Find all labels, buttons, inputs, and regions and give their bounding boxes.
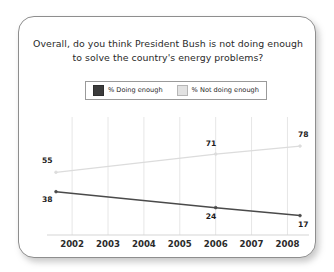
data-point-label: 38	[42, 195, 53, 204]
x-tick-2008: 2008	[275, 239, 299, 249]
legend-entry-not-doing-enough: % Not doing enough	[177, 85, 259, 96]
data-point-marker	[299, 214, 302, 217]
chart-card: Overall, do you think President Bush is …	[18, 16, 316, 258]
x-tick-2002: 2002	[60, 239, 84, 249]
x-tick-2003: 2003	[96, 239, 120, 249]
data-point-marker	[299, 145, 302, 148]
chart-plot-area: 557178382417	[47, 117, 309, 239]
screenshot-root: Overall, do you think President Bush is …	[0, 0, 334, 272]
data-point-label: 17	[298, 220, 309, 229]
data-point-marker	[214, 153, 217, 156]
chart-legend: % Doing enough % Not doing enough	[85, 81, 267, 100]
data-point-label: 24	[206, 212, 217, 221]
x-tick-2005: 2005	[168, 239, 192, 249]
data-point-label: 78	[298, 130, 309, 139]
chart-title: Overall, do you think President Bush is …	[33, 37, 303, 64]
chart-svg	[47, 117, 309, 239]
legend-label-doing-enough: % Doing enough	[108, 86, 163, 95]
series-line-not-doing-enough	[56, 146, 300, 172]
x-tick-2004: 2004	[132, 239, 156, 249]
chart-title-line-2: to solve the country's energy problems?	[33, 51, 303, 65]
data-point-marker	[214, 206, 217, 209]
data-point-marker	[55, 171, 58, 174]
data-point-label: 71	[206, 139, 217, 148]
data-point-marker	[55, 190, 58, 193]
light-swatch-icon	[177, 85, 188, 96]
x-axis-tick-labels: 2002200320042005200620072008	[47, 239, 309, 257]
legend-entry-doing-enough: % Doing enough	[93, 85, 163, 96]
legend-label-not-doing-enough: % Not doing enough	[192, 86, 259, 95]
x-tick-2007: 2007	[240, 239, 264, 249]
chart-title-line-1: Overall, do you think President Bush is …	[33, 37, 303, 51]
data-point-label: 55	[42, 156, 53, 165]
x-tick-2006: 2006	[204, 239, 228, 249]
dark-swatch-icon	[93, 85, 104, 96]
series-line-doing-enough	[56, 192, 300, 216]
